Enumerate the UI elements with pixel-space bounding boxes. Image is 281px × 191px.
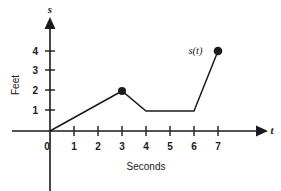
y-axis: 1 2 3 4 s Feet <box>10 3 56 191</box>
y-tick-label-4: 4 <box>32 46 38 57</box>
y-tick-label-1: 1 <box>32 105 38 116</box>
x-axis-title: Seconds <box>127 161 166 172</box>
x-tick-label-6: 6 <box>191 141 197 152</box>
chart-canvas: 0 1 2 3 4 5 6 7 t Seconds 1 <box>0 0 281 191</box>
data-point-marker <box>214 47 223 56</box>
series-line-path <box>50 51 218 131</box>
y-axis-variable-label: s <box>47 3 52 15</box>
x-tick-label-4: 4 <box>143 141 149 152</box>
y-axis-arrow-icon <box>45 17 56 29</box>
y-tick-label-3: 3 <box>32 65 38 76</box>
x-tick-label-7: 7 <box>215 141 221 152</box>
x-axis-variable-label: t <box>270 124 274 136</box>
series-s-of-t <box>50 47 222 131</box>
y-axis-title: Feet <box>10 75 21 95</box>
x-tick-label-1: 1 <box>71 141 77 152</box>
x-tick-label-2: 2 <box>95 141 101 152</box>
series-annotation-label: s(t) <box>188 45 203 57</box>
x-axis: 0 1 2 3 4 5 6 7 t Seconds <box>12 124 274 172</box>
y-tick-label-2: 2 <box>32 85 38 96</box>
x-axis-arrow-icon <box>256 126 268 137</box>
chart-figure: 0 1 2 3 4 5 6 7 t Seconds 1 <box>0 0 281 191</box>
x-tick-label-3: 3 <box>119 141 125 152</box>
x-tick-label-5: 5 <box>167 141 173 152</box>
data-point-marker <box>118 87 126 95</box>
